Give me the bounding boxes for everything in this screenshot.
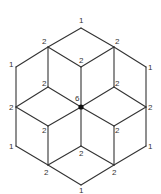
- vertex-label-right-mid: 2: [148, 103, 153, 112]
- edge-top-upper-right: [81, 28, 114, 47]
- edge-lower-right-bottom: [81, 165, 114, 185]
- vertex-label-right-bottom: 1: [148, 142, 153, 151]
- edge-inner-upper-left-left-mid: [16, 87, 48, 107]
- center-vertex-dot: [78, 104, 83, 109]
- vertex-label-left-top: 1: [9, 60, 14, 69]
- edge-lower-left-bottom: [48, 165, 81, 185]
- diagram-vertex-markers: [78, 104, 83, 109]
- vertex-label-upper-right: 2: [115, 37, 120, 46]
- vertex-label-inner-lower-left: 2: [42, 126, 47, 135]
- vertex-label-lower-right: 2: [112, 168, 117, 177]
- vertex-label-inner-lower-right: 2: [115, 126, 120, 135]
- edge-right-mid-inner-lower-right: [114, 107, 146, 126]
- edge-upper-left-inner-top: [48, 47, 81, 67]
- edge-upper-right-right-top: [114, 47, 146, 67]
- edge-right-bottom-lower-right: [114, 146, 146, 165]
- vertex-label-inner-upper-right: 2: [115, 79, 120, 88]
- edge-inner-bottom-lower-left: [48, 146, 81, 165]
- edge-upper-left-left-top: [16, 47, 48, 67]
- vertex-label-lower-left: 2: [44, 168, 49, 177]
- vertex-label-bottom: 1: [79, 186, 84, 194]
- edge-upper-right-inner-top: [81, 47, 114, 67]
- edge-center-inner-lower-right: [81, 107, 114, 126]
- vertex-label-inner-top: 2: [79, 56, 84, 65]
- vertex-label-top: 1: [79, 16, 84, 25]
- vertex-label-upper-left: 2: [42, 37, 47, 46]
- edge-inner-upper-right-right-mid: [114, 87, 146, 107]
- edge-center-inner-lower-left: [48, 107, 81, 126]
- vertex-label-left-bottom: 1: [9, 142, 14, 151]
- hexagon-rhombus-diagram: 1221122226222112221: [0, 0, 161, 194]
- vertex-label-inner-bottom: 2: [79, 149, 84, 158]
- edge-left-bottom-lower-left: [16, 146, 48, 165]
- vertex-label-right-top: 1: [148, 63, 153, 72]
- edge-top-upper-left: [48, 28, 81, 47]
- vertex-label-left-mid: 2: [9, 103, 14, 112]
- edge-left-mid-inner-lower-left: [16, 107, 48, 126]
- vertex-label-inner-upper-left: 2: [42, 79, 47, 88]
- edge-inner-bottom-lower-right: [81, 146, 114, 165]
- edge-inner-upper-right-center: [81, 87, 114, 107]
- vertex-label-center: 6: [75, 94, 80, 103]
